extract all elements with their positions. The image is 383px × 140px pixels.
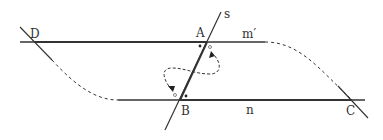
- angle-open-a: [209, 46, 212, 49]
- label-s: s: [224, 7, 230, 21]
- segment-ab: [180, 42, 207, 100]
- arrowhead-down-icon: [168, 86, 175, 92]
- angle-dot-b: [185, 95, 188, 98]
- label-d: D: [30, 27, 40, 41]
- arrowhead-up-icon: [209, 51, 215, 58]
- dashed-curve-m-to-c: [265, 42, 352, 100]
- angle-dot-a: [199, 45, 202, 48]
- label-b: B: [181, 104, 190, 118]
- dashed-arrow-curve: [164, 53, 219, 90]
- diagram-canvas: D A s m′ B n C: [0, 0, 383, 140]
- label-n: n: [246, 103, 254, 117]
- label-a: A: [195, 26, 205, 40]
- label-m-prime: m′: [242, 27, 256, 41]
- angle-open-b: [174, 94, 177, 97]
- label-c: C: [346, 104, 355, 118]
- dashed-curve-d-to-n: [52, 60, 118, 100]
